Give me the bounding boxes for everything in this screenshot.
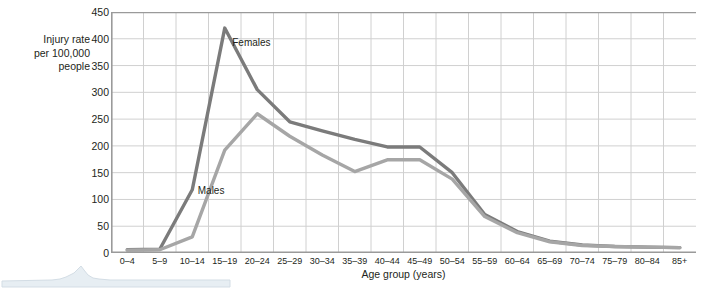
x-tick-label: 80–84 [635,256,660,267]
x-tick-label: 15–19 [212,256,237,267]
y-axis-title-line-3: people [6,60,90,74]
x-tick-label: 45–49 [407,256,432,267]
x-tick-label: 5–9 [152,256,167,267]
y-tick-label: 50 [97,221,109,231]
plot-svg [111,12,696,253]
x-tick-label: 65–69 [537,256,562,267]
y-tick-label: 350 [91,61,109,71]
x-tick-label: 40–44 [375,256,400,267]
y-axis-title-line-2: per 100,000 [6,47,90,61]
x-tick-label: 10–14 [180,256,205,267]
y-axis-tick-labels: 050100150200250300350400450 [83,12,109,253]
x-tick-label: 75–79 [602,256,627,267]
series-label-males: Males [198,185,225,196]
y-axis-title-line-1: Injury rate [6,33,90,47]
x-tick-label: 25–29 [277,256,302,267]
x-tick-label: 50–54 [440,256,465,267]
y-tick-label: 0 [103,248,109,258]
y-axis-title: Injury rate per 100,000 people [6,33,90,74]
series-label-females: Females [232,37,270,48]
x-tick-label: 55–59 [472,256,497,267]
x-tick-label: 30–34 [310,256,335,267]
plot-area: Females Males [111,12,696,253]
y-tick-label: 450 [91,7,109,17]
x-axis-title: Age group (years) [111,268,696,280]
y-tick-label: 300 [91,87,109,97]
x-tick-label: 60–64 [505,256,530,267]
x-tick-label: 0–4 [120,256,135,267]
y-tick-label: 250 [91,114,109,124]
y-tick-label: 150 [91,168,109,178]
y-tick-label: 200 [91,141,109,151]
injury-rate-line-chart: Injury rate per 100,000 people 050100150… [0,0,713,288]
x-tick-label: 70–74 [570,256,595,267]
y-tick-label: 100 [91,194,109,204]
x-tick-label: 35–39 [342,256,367,267]
x-tick-label: 85+ [672,256,687,267]
y-tick-label: 400 [91,34,109,44]
x-tick-label: 20–24 [245,256,270,267]
